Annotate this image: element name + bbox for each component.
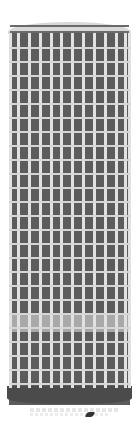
floor-line (9, 201, 130, 203)
floor-line (9, 75, 130, 77)
mullion (124, 33, 127, 388)
mullion (60, 33, 63, 388)
floor-line (9, 243, 130, 245)
floor-line (9, 145, 130, 147)
building-base (7, 386, 132, 404)
floor-line (9, 355, 130, 357)
floor-line (9, 89, 130, 91)
floor-line (9, 285, 130, 287)
mullion (93, 33, 96, 388)
mullion (17, 33, 20, 388)
caption-line (30, 413, 110, 416)
mullion (9, 33, 12, 388)
floor-line (9, 229, 130, 231)
floor-line (9, 159, 130, 161)
mullion (39, 33, 42, 388)
floor-line (9, 299, 130, 301)
mullion (128, 33, 131, 388)
mullion (50, 33, 53, 388)
floor-line (9, 257, 130, 259)
floor-line (9, 313, 130, 315)
floor-line (9, 215, 130, 217)
mullion (115, 33, 118, 388)
mullion (28, 33, 31, 388)
floor-line (9, 61, 130, 63)
floor-line (9, 173, 130, 175)
mullion (71, 33, 74, 388)
mullion (104, 33, 107, 388)
floor-line (9, 369, 130, 371)
floor-line (9, 383, 130, 385)
floor-line (9, 341, 130, 343)
caption-mark (85, 412, 96, 417)
floor-line (9, 327, 130, 329)
floor-line (9, 131, 130, 133)
floor-line (9, 271, 130, 273)
floor-line (9, 117, 130, 119)
mullion (82, 33, 85, 388)
floor-line (9, 103, 130, 105)
floor-line (9, 47, 130, 49)
floor-line (9, 187, 130, 189)
crown-stripe (10, 25, 129, 27)
caption-line (30, 408, 120, 412)
